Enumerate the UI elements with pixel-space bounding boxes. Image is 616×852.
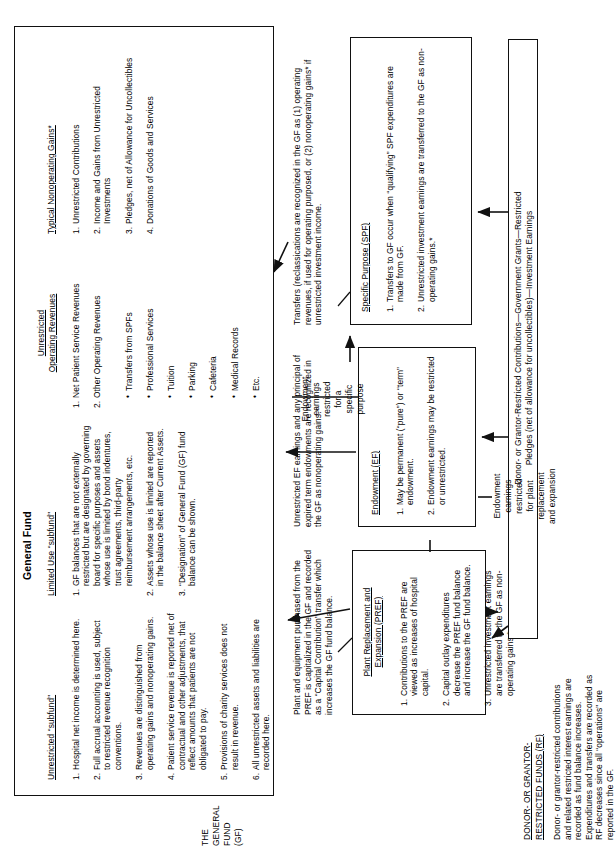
line-spf-note <box>338 292 350 306</box>
line-pref-note <box>338 638 352 652</box>
arrow-spf-to-gf <box>274 242 288 272</box>
arrow-pref-to-gf <box>288 609 350 620</box>
arrow-inflow-to-pref <box>492 626 508 638</box>
